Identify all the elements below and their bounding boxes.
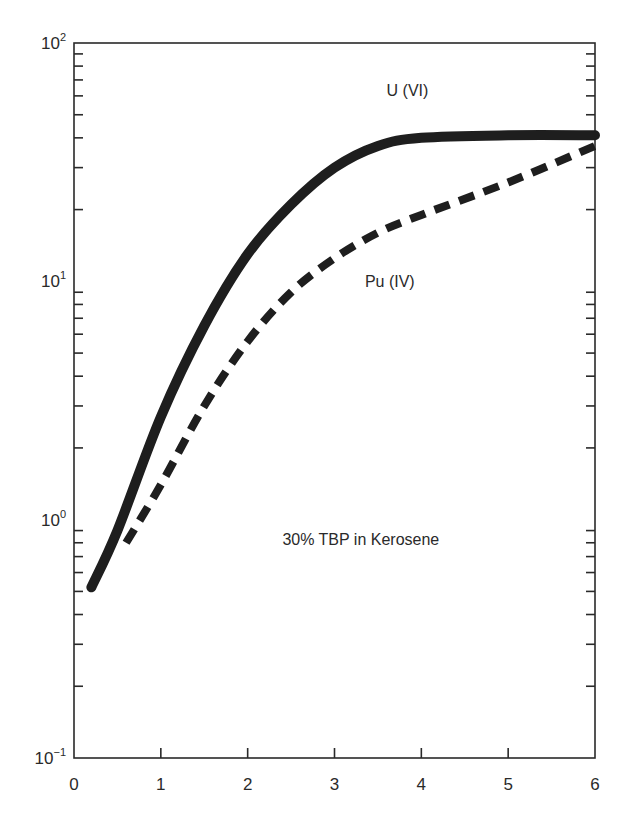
u-vi-curve-label: U (VI) xyxy=(387,82,429,99)
x-tick-label: 0 xyxy=(69,775,78,794)
x-tick-label: 5 xyxy=(503,775,512,794)
x-tick-label: 3 xyxy=(330,775,339,794)
background xyxy=(0,0,627,838)
chart: 10210110010−1 0123456 U (VI) Pu (IV) 30%… xyxy=(0,0,627,838)
x-tick-label: 2 xyxy=(243,775,252,794)
condition-annotation: 30% TBP in Kerosene xyxy=(282,531,439,548)
x-tick-label: 1 xyxy=(156,775,165,794)
pu-iv-curve-label: Pu (IV) xyxy=(365,273,415,290)
x-tick-label: 6 xyxy=(590,775,599,794)
x-tick-label: 4 xyxy=(417,775,426,794)
